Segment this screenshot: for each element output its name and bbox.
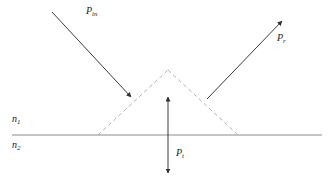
reflected-ray-arrow	[207, 21, 282, 99]
label-incident-power-subscript: in	[92, 10, 97, 18]
label-refractive-index-lower: n2	[12, 140, 21, 150]
label-transmitted-power: Pt	[176, 148, 184, 158]
label-reflected-power-subscript: r	[283, 37, 286, 45]
label-refractive-index-upper: n1	[12, 114, 21, 124]
label-refractive-index-upper-subscript: 1	[17, 118, 21, 126]
label-refractive-index-lower-subscript: 2	[17, 144, 21, 152]
dashed-right-edge	[168, 70, 238, 135]
incident-ray-arrow	[52, 12, 131, 97]
optics-diagram: Pin Pr Pt n1 n2	[0, 0, 332, 188]
label-incident-power: Pin	[86, 6, 98, 16]
dashed-left-edge	[98, 70, 168, 135]
label-transmitted-power-subscript: t	[182, 152, 184, 160]
optics-diagram-canvas	[0, 0, 332, 188]
label-reflected-power: Pr	[277, 33, 286, 43]
